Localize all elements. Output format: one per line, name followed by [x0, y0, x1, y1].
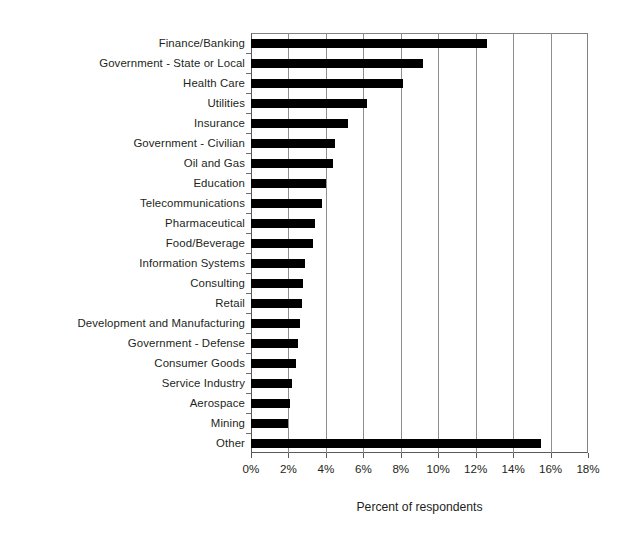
category-label: Pharmaceutical	[0, 217, 245, 229]
category-tick	[246, 293, 251, 294]
category-label: Consumer Goods	[0, 357, 245, 369]
category-label: Government - State or Local	[0, 57, 245, 69]
category-tick	[246, 73, 251, 74]
category-label: Government - Civilian	[0, 137, 245, 149]
x-axis-tick	[438, 453, 439, 458]
category-tick	[246, 53, 251, 54]
x-axis-tick	[251, 453, 252, 458]
bar	[251, 79, 403, 88]
category-label: Education	[0, 177, 245, 189]
gridline	[513, 33, 514, 453]
x-axis-tick	[288, 453, 289, 458]
category-tick	[246, 273, 251, 274]
x-tick-label: 12%	[464, 462, 487, 476]
category-tick	[246, 113, 251, 114]
category-tick	[246, 313, 251, 314]
bar	[251, 419, 288, 428]
gridline	[551, 33, 552, 453]
gridline	[476, 33, 477, 453]
bar	[251, 179, 326, 188]
category-label: Health Care	[0, 77, 245, 89]
category-label: Retail	[0, 297, 245, 309]
x-tick-label: 2%	[280, 462, 297, 476]
bar	[251, 299, 302, 308]
bar	[251, 59, 423, 68]
category-label: Mining	[0, 417, 245, 429]
bar	[251, 239, 313, 248]
category-label: Information Systems	[0, 257, 245, 269]
category-label: Consulting	[0, 277, 245, 289]
category-tick	[246, 233, 251, 234]
bar	[251, 399, 290, 408]
bar	[251, 279, 303, 288]
category-tick	[246, 433, 251, 434]
gridline	[438, 33, 439, 453]
category-tick	[246, 373, 251, 374]
x-axis-title: Percent of respondents	[251, 500, 588, 514]
gridline	[326, 33, 327, 453]
bar	[251, 139, 335, 148]
x-tick-label: 10%	[427, 462, 450, 476]
category-label: Food/Beverage	[0, 237, 245, 249]
category-label: Government - Defense	[0, 337, 245, 349]
bar	[251, 99, 367, 108]
bar	[251, 319, 300, 328]
category-label: Aerospace	[0, 397, 245, 409]
x-tick-label: 14%	[502, 462, 525, 476]
category-tick	[246, 353, 251, 354]
bar	[251, 259, 305, 268]
bar	[251, 359, 296, 368]
x-axis-tick	[551, 453, 552, 458]
category-tick	[246, 133, 251, 134]
category-label: Telecommunications	[0, 197, 245, 209]
bar	[251, 119, 348, 128]
category-label: Finance/Banking	[0, 37, 245, 49]
x-axis-tick-labels: 0%2%4%6%8%10%12%14%16%18%	[0, 462, 632, 478]
gridline	[401, 33, 402, 453]
bar	[251, 379, 292, 388]
category-axis-labels: Finance/BankingGovernment - State or Loc…	[0, 33, 245, 453]
plot-area	[251, 33, 588, 453]
x-axis-tick	[401, 453, 402, 458]
category-label: Service Industry	[0, 377, 245, 389]
x-tick-label: 18%	[576, 462, 599, 476]
x-tick-label: 16%	[539, 462, 562, 476]
x-tick-label: 4%	[317, 462, 334, 476]
category-tick	[246, 173, 251, 174]
x-tick-label: 8%	[392, 462, 409, 476]
category-tick	[246, 413, 251, 414]
bar	[251, 199, 322, 208]
x-axis-tick	[363, 453, 364, 458]
x-tick-label: 6%	[355, 462, 372, 476]
category-label: Utilities	[0, 97, 245, 109]
bar	[251, 39, 487, 48]
gridline	[363, 33, 364, 453]
category-label: Development and Manufacturing	[0, 317, 245, 329]
category-tick	[246, 253, 251, 254]
category-tick	[246, 213, 251, 214]
category-tick	[246, 393, 251, 394]
category-label: Insurance	[0, 117, 245, 129]
bar	[251, 219, 315, 228]
category-label: Oil and Gas	[0, 157, 245, 169]
category-tick	[246, 153, 251, 154]
x-axis-tick	[588, 453, 589, 458]
category-tick	[246, 93, 251, 94]
x-axis-tick	[326, 453, 327, 458]
category-tick	[246, 193, 251, 194]
bar	[251, 339, 298, 348]
bar	[251, 159, 333, 168]
category-label: Other	[0, 437, 245, 449]
x-tick-label: 0%	[243, 462, 260, 476]
category-tick	[246, 333, 251, 334]
x-axis-tick	[476, 453, 477, 458]
bar-chart: Finance/BankingGovernment - State or Loc…	[0, 0, 632, 546]
x-axis-tick	[513, 453, 514, 458]
bar	[251, 439, 541, 448]
